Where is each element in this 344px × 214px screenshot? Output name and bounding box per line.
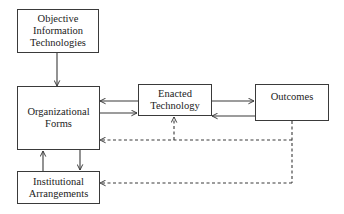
node-organizational-forms: Organizational Forms [17,86,100,150]
node-institutional-arrangements: Institutional Arrangements [17,171,100,204]
node-label-line: Information [30,25,86,37]
node-label-line: Technologies [30,37,86,49]
node-label-line: Technology [150,100,199,112]
node-label-line: Institutional [29,176,88,188]
node-enacted-technology: Enacted Technology [138,84,212,116]
node-outcomes: Outcomes [255,84,329,121]
node-label-line: Forms [27,118,89,130]
node-label-line: Objective [30,13,86,25]
node-label-line: Arrangements [29,188,88,200]
node-label-line: Outcomes [271,91,314,103]
node-label-line: Enacted [150,88,199,100]
node-label-line: Organizational [27,106,89,118]
node-objective-information-technologies: Objective Information Technologies [17,9,99,53]
